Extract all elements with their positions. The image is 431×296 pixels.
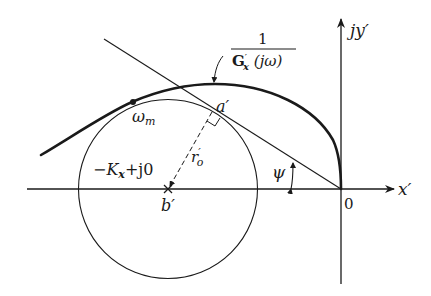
radius-label: r′o xyxy=(191,146,204,169)
origin-label: 0 xyxy=(344,195,354,213)
right-angle-marker xyxy=(207,118,220,126)
curve-label: 1 G′x (jω) xyxy=(231,30,296,72)
x-axis-label: x′ xyxy=(398,179,412,199)
angle-psi-arc xyxy=(291,163,293,189)
curve-label-numerator: 1 xyxy=(258,30,268,48)
omega-m-label: ωm xyxy=(132,107,155,128)
curve-label-denominator: G′x (jω) xyxy=(232,52,283,72)
tangent-point-label: a′ xyxy=(216,97,230,116)
curve-label-leader-arrow xyxy=(214,56,223,82)
center-coordinate-label: −Kx+j0 xyxy=(93,160,153,181)
angle-psi-label: ψ xyxy=(272,162,286,182)
y-axis-label: jy′ xyxy=(346,20,369,40)
omega-m-point xyxy=(130,99,136,105)
center-label: b′ xyxy=(161,196,175,215)
inverse-polar-plot-diagram: x′ jy′ 0 ωm a′ r′o b′ −Kx+j0 ψ 1 xyxy=(0,0,431,296)
inverse-polar-curve xyxy=(41,84,341,189)
